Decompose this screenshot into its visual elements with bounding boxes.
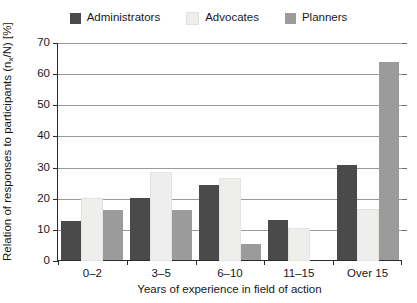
y-axis-title: Relation of responses to participants (n… (0, 43, 16, 261)
x-axis-tick-label: Over 15 (347, 268, 388, 280)
y-axis-tick-right (402, 230, 407, 231)
bar-chart: AdministratorsAdvocatesPlanners 01020304… (0, 0, 417, 303)
bar-group: 3–5 (127, 43, 196, 260)
x-axis-tick-label: 0–2 (83, 268, 102, 280)
x-axis-tick (58, 260, 59, 265)
bar[interactable] (61, 221, 81, 260)
x-axis-tick-label: 3–5 (152, 268, 171, 280)
bars-layer: 0–23–56–1011–15Over 15 (58, 43, 402, 260)
bar[interactable] (379, 62, 399, 260)
x-axis-tick-label: 6–10 (217, 268, 243, 280)
x-axis-tick-label: 11–15 (283, 268, 314, 280)
y-axis-tick-right (402, 43, 407, 44)
y-axis-tick-right (402, 74, 407, 75)
legend-entry[interactable]: Administrators (70, 12, 161, 24)
bar[interactable] (358, 210, 378, 260)
x-axis-tick (401, 260, 402, 265)
legend-entry[interactable]: Planners (285, 12, 347, 24)
bar[interactable] (103, 210, 123, 260)
bar[interactable] (130, 198, 150, 260)
legend-label: Planners (302, 12, 347, 24)
bar[interactable] (172, 210, 192, 260)
y-axis-tick-label: 0 (44, 255, 50, 267)
y-axis-tick-label: 30 (37, 162, 50, 174)
bar-group: Over 15 (333, 43, 402, 260)
bar[interactable] (82, 199, 102, 260)
bar[interactable] (220, 179, 240, 260)
bar[interactable] (199, 185, 219, 260)
x-axis-tick (127, 260, 128, 265)
y-axis-tick-right (402, 105, 407, 106)
y-axis-tick-label: 10 (37, 224, 50, 236)
legend-swatch-icon (285, 13, 296, 24)
bar[interactable] (289, 229, 309, 260)
legend-entry[interactable]: Advocates (186, 12, 259, 25)
bar[interactable] (337, 165, 357, 260)
chart-legend: AdministratorsAdvocatesPlanners (0, 8, 417, 28)
plot-area: 010203040506070 0–23–56–1011–15Over 15 (57, 43, 402, 261)
bar-group: 11–15 (264, 43, 333, 260)
bar[interactable] (241, 244, 261, 260)
y-axis-tick-label: 50 (37, 100, 50, 112)
y-axis-tick-right (402, 199, 407, 200)
legend-label: Administrators (87, 12, 161, 24)
y-axis-title-subscript: x (6, 58, 15, 62)
y-axis-tick-right (402, 136, 407, 137)
legend-label: Advocates (205, 12, 259, 24)
x-axis-tick (196, 260, 197, 265)
y-axis-tick-label: 20 (37, 193, 50, 205)
y-axis-tick-label: 70 (37, 37, 50, 49)
y-axis-tick-right (402, 168, 407, 169)
x-axis-tick (333, 260, 334, 265)
x-axis-title: Years of experience in field of action (57, 283, 402, 295)
bar-group: 0–2 (58, 43, 127, 260)
bar[interactable] (151, 173, 171, 260)
x-axis-tick (264, 260, 265, 265)
y-axis-tick-label: 60 (37, 68, 50, 80)
y-axis-tick-label: 40 (37, 131, 50, 143)
legend-swatch-icon (186, 12, 199, 25)
legend-swatch-icon (70, 13, 81, 24)
bar[interactable] (268, 220, 288, 260)
bar-group: 6–10 (196, 43, 265, 260)
